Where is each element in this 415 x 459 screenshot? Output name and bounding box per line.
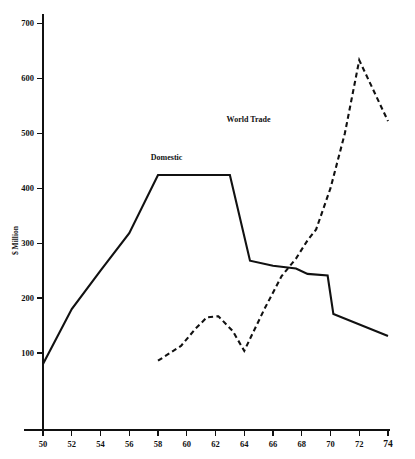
- x-axis-tick-label: 70: [326, 439, 335, 449]
- axis-titles: $ Million: [11, 225, 20, 255]
- y-axis-title: $ Million: [11, 225, 20, 255]
- y-axis-tick-label: 600: [21, 73, 34, 83]
- series-annotations: DomesticWorld Trade: [151, 115, 271, 161]
- y-axis-tick-label: 200: [21, 293, 34, 303]
- series-label-world-trade: World Trade: [227, 115, 271, 124]
- x-axis-tick-label: 50: [39, 439, 48, 449]
- x-axis-tick-label: 64: [240, 439, 249, 449]
- x-axis-tick-label: 56: [125, 439, 134, 449]
- x-axis-tick-label: 66: [269, 439, 278, 449]
- x-axis-tick-label: 58: [154, 439, 163, 449]
- axis-ticks: [37, 23, 388, 436]
- x-axis-tick-label: 74: [383, 439, 393, 449]
- x-axis-tick-label: 72: [355, 439, 364, 449]
- series-line-world-trade: [158, 60, 388, 361]
- series-line-domestic: [43, 175, 388, 364]
- y-axis-tick-label: 300: [21, 238, 34, 248]
- x-axis-tick-label: 54: [96, 439, 105, 449]
- x-axis-tick-label: 52: [68, 439, 77, 449]
- data-series-group: [43, 60, 388, 364]
- x-axis-tick-label: 62: [211, 439, 220, 449]
- y-axis-tick-label: 700: [21, 18, 34, 28]
- x-axis-tick-label: 60: [183, 439, 192, 449]
- y-axis-tick-label: 400: [21, 183, 34, 193]
- series-label-domestic: Domestic: [151, 153, 183, 162]
- y-axis-tick-label: 500: [21, 128, 34, 138]
- line-chart: 1002003004005006007005052545658606264666…: [0, 0, 415, 459]
- chart-axes: [24, 14, 390, 430]
- chart-container: 1002003004005006007005052545658606264666…: [0, 0, 415, 459]
- x-axis-tick-label: 68: [298, 439, 307, 449]
- axis-tick-labels: 1002003004005006007005052545658606264666…: [21, 18, 393, 449]
- y-axis-tick-label: 100: [21, 348, 34, 358]
